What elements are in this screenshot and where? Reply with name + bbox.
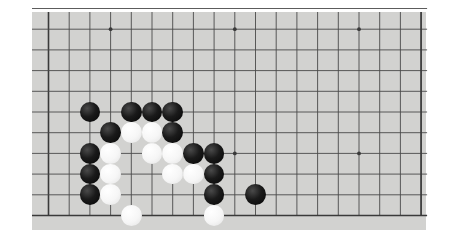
white-stone[interactable] [121,205,142,226]
go-board-screenshot [0,0,457,249]
black-stone[interactable] [162,122,183,143]
white-stone[interactable] [162,164,183,185]
black-stone[interactable] [100,122,121,143]
white-stone[interactable] [142,143,163,164]
white-stone[interactable] [100,184,121,205]
black-stone[interactable] [80,102,101,123]
white-stone[interactable] [142,122,163,143]
black-stone[interactable] [245,184,266,205]
white-stone[interactable] [100,143,121,164]
white-stone[interactable] [204,205,225,226]
white-stone[interactable] [183,164,204,185]
white-stone[interactable] [100,164,121,185]
black-stone[interactable] [80,164,101,185]
black-stone[interactable] [80,184,101,205]
black-stone[interactable] [204,184,225,205]
black-stone[interactable] [162,102,183,123]
black-stone[interactable] [204,164,225,185]
black-stone[interactable] [204,143,225,164]
white-stone[interactable] [162,143,183,164]
white-stone[interactable] [121,122,142,143]
black-stone[interactable] [183,143,204,164]
black-stone[interactable] [121,102,142,123]
stone-layer [0,0,457,249]
black-stone[interactable] [80,143,101,164]
black-stone[interactable] [142,102,163,123]
